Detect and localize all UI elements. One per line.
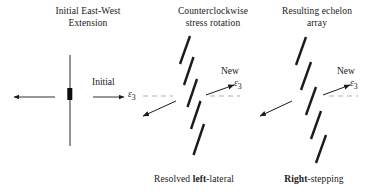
panel-3-caption-line-1: Right-stepping	[284, 174, 343, 184]
caption-bold-word: Right	[284, 174, 307, 184]
echelon-segment-icon	[296, 37, 306, 65]
caption-post-text: -lateral	[206, 174, 234, 184]
shear-arrow-down-left-icon	[260, 101, 292, 116]
new-strain-label-panel-2: New	[221, 66, 239, 77]
shear-arrow-down-left-icon	[143, 101, 176, 116]
panel-3-graphics	[260, 37, 358, 163]
panel-1-graphics	[14, 55, 124, 146]
panel-2-caption: Resolved left-lateral shear on normal fa…	[128, 162, 260, 195]
epsilon-subscript: 3	[238, 82, 242, 91]
caption-bold-word: left	[193, 174, 207, 184]
new-strain-label-panel-3: New	[337, 66, 355, 77]
fault-segment-icon	[194, 124, 205, 155]
echelon-segment-icon	[311, 111, 321, 139]
epsilon-subscript: 3	[132, 93, 136, 102]
panel-1-title: Initial East-West Extension	[18, 6, 158, 29]
new-strain-symbol-panel-2: ε3	[234, 78, 242, 92]
new-strain-arrow-icon	[323, 85, 350, 95]
initial-strain-symbol: ε3	[128, 89, 136, 103]
panel-3-title: Resulting echelon array	[258, 6, 376, 29]
caption-pre-text: Resolved	[154, 174, 193, 184]
new-strain-symbol-panel-3: ε3	[350, 78, 358, 92]
panel-3-caption: Right-stepping echelon segments	[252, 162, 376, 195]
echelon-segment-icon	[316, 135, 326, 163]
echelon-segment-icon	[301, 62, 311, 90]
panel-2-caption-line-1: Resolved left-lateral	[154, 174, 234, 184]
fault-segment-icon	[184, 57, 194, 85]
initial-strain-label: Initial	[92, 77, 115, 88]
fault-segment-icon	[188, 79, 198, 107]
epsilon-subscript: 3	[354, 82, 358, 91]
fault-marker-icon	[67, 88, 72, 100]
echelon-segment-icon	[306, 87, 316, 115]
fault-segment-icon	[180, 36, 190, 64]
panel-2-graphics	[143, 36, 240, 155]
caption-post-text: -stepping	[307, 174, 343, 184]
fault-segment-icon	[191, 101, 201, 129]
structural-geology-figure: Initial East-West Extension Counterclock…	[0, 0, 376, 195]
new-strain-arrow-icon	[206, 85, 234, 95]
